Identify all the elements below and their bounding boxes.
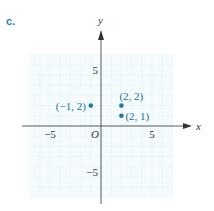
point-label: (−1, 2) — [56, 100, 86, 113]
origin-label: O — [91, 128, 99, 140]
point-label: (2, 1) — [125, 110, 149, 123]
x-tick-label: −5 — [44, 128, 56, 140]
data-point — [119, 114, 124, 119]
x-axis-label: x — [195, 120, 201, 132]
y-axis-label: y — [97, 14, 103, 26]
y-tick-label: −5 — [86, 166, 98, 178]
y-axis-arrow-icon — [98, 30, 104, 40]
x-tick-label: 5 — [149, 128, 155, 140]
data-point — [119, 103, 124, 108]
data-point — [89, 103, 94, 108]
point-label: (2, 2) — [119, 90, 143, 103]
coordinate-plane: xyO −555−5 (−1, 2)(2, 2)(2, 1) — [0, 0, 214, 211]
y-tick-label: 5 — [93, 64, 99, 76]
x-axis-arrow-icon — [183, 123, 192, 129]
